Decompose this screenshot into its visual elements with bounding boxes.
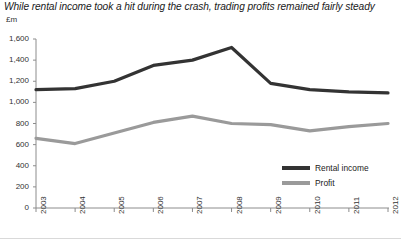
series-layer [36,47,388,143]
y-axis-tick-label: 800 [0,120,29,128]
y-axis-tick-label: 1,200 [0,77,29,85]
y-axis-tick-label: 600 [0,141,29,149]
x-axis-tick-label: 2005 [118,196,126,214]
legend-swatch-profit [282,181,310,185]
y-axis-tick-label: 200 [0,183,29,191]
chart-legend: Rental income Profit [282,160,369,190]
x-axis-tick-label: 2011 [353,197,361,214]
series-line-rental-income [36,47,388,92]
y-axis-tick-label: 1,400 [0,56,29,64]
legend-item-profit[interactable]: Profit [282,175,369,190]
x-axis-tick-label: 2007 [196,196,204,214]
x-axis-tick-label: 2009 [275,196,283,214]
y-axis-tick-label: 1,000 [0,98,29,106]
chart-screenshot: While rental income took a hit during th… [0,0,401,239]
x-axis-tick-label: 2006 [157,196,165,214]
legend-label-profit: Profit [315,178,335,188]
bottom-divider [0,238,401,239]
series-line-profit [36,116,388,143]
plot-area: 02004006008001,0001,2001,4001,600 200320… [0,0,401,239]
legend-label-rental-income: Rental income [315,163,369,173]
x-axis-tick-label: 2003 [40,196,48,214]
y-axis-tick-label: 0 [0,204,29,212]
x-axis-tick-label: 2004 [79,196,87,214]
x-axis-tick-label: 2008 [236,196,244,214]
x-axis-tick-label: 2012 [392,196,400,214]
x-axis-tick-label: 2010 [314,196,322,214]
legend-swatch-rental-income [282,166,310,170]
y-axis-tick-label: 1,600 [0,35,29,43]
legend-item-rental-income[interactable]: Rental income [282,160,369,175]
y-axis-tick-label: 400 [0,162,29,170]
